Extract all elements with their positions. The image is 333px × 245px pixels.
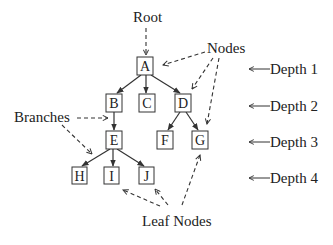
- edge-a-b: [117, 75, 141, 93]
- branches-label: Branches: [14, 109, 70, 125]
- depth-2-label: Depth 2: [270, 98, 318, 114]
- node-d: D: [175, 94, 191, 112]
- leaf-pointer-arrow-j: [155, 189, 168, 205]
- edge-a-d: [151, 75, 180, 93]
- node-a-label: A: [140, 59, 151, 74]
- tree-edges: [82, 75, 198, 166]
- leaf-nodes-label: Leaf Nodes: [142, 213, 212, 229]
- node-h: H: [72, 167, 87, 184]
- node-b-label: B: [109, 96, 118, 111]
- depth-2: Depth 2: [249, 98, 318, 114]
- node-g: G: [192, 131, 208, 149]
- edge-e-j: [117, 149, 144, 166]
- node-i: I: [104, 167, 119, 184]
- depth-3-label: Depth 3: [270, 134, 318, 150]
- nodes-pointer-arrow-d: [192, 58, 213, 89]
- node-g-label: G: [195, 133, 205, 148]
- depth-3: Depth 3: [249, 134, 318, 150]
- node-f-label: F: [161, 133, 169, 148]
- depth-1-label: Depth 1: [270, 61, 318, 77]
- node-f: F: [157, 131, 173, 149]
- depth-4: Depth 4: [249, 170, 318, 186]
- edge-e-h: [82, 149, 110, 166]
- node-d-label: D: [178, 96, 188, 111]
- edge-d-f: [168, 112, 180, 130]
- node-j-label: J: [144, 169, 150, 184]
- node-h-label: H: [74, 169, 84, 184]
- nodes-label: Nodes: [207, 40, 245, 56]
- branches-pointer-arrow-2: [62, 125, 92, 154]
- nodes-pointer-arrow-g: [207, 58, 219, 124]
- node-e-label: E: [110, 133, 119, 148]
- depth-labels: Depth 1 Depth 2 Depth 3 Depth 4: [249, 61, 318, 186]
- nodes-pointer-arrow-a: [163, 52, 205, 65]
- tree-diagram: A B C D E F G H: [0, 0, 333, 245]
- node-b: B: [106, 94, 122, 112]
- depth-1: Depth 1: [249, 61, 318, 77]
- leaf-pointer-arrow-i: [123, 190, 160, 206]
- node-c-label: C: [142, 96, 151, 111]
- node-a: A: [137, 57, 153, 75]
- root-label: Root: [133, 9, 163, 25]
- node-e: E: [106, 131, 122, 149]
- node-j: J: [139, 167, 154, 184]
- node-c: C: [139, 94, 155, 112]
- depth-4-label: Depth 4: [270, 170, 318, 186]
- node-i-label: I: [109, 169, 114, 184]
- leaf-pointer-arrow-g: [182, 155, 200, 205]
- edge-d-g: [186, 112, 198, 130]
